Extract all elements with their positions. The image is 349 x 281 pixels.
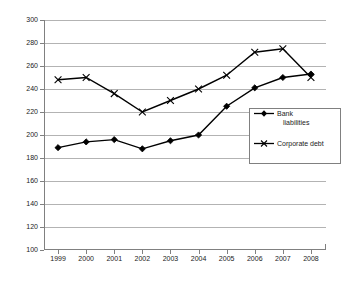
legend-label-bank-liabilities-line1: Bank [277,109,293,118]
line-chart: 300280260240220200180160140120100 199920… [0,0,349,281]
chart-legend: Bank liabilities Corporate debt [249,108,341,164]
legend-item-corporate-debt: Corporate debt [250,139,340,148]
data-point-marker [83,139,89,145]
data-point-marker [280,74,286,80]
legend-item-bank-liabilities: Bank liabilities [250,109,340,118]
diamond-marker-icon [253,109,275,118]
data-point-marker [55,145,61,151]
data-point-marker [139,146,145,152]
legend-label-corporate-debt: Corporate debt [277,139,324,148]
data-point-marker [167,138,173,144]
x-marker-icon [253,139,275,148]
data-point-marker [111,137,117,143]
legend-label-bank-liabilities-line2: liabilities [283,118,309,127]
